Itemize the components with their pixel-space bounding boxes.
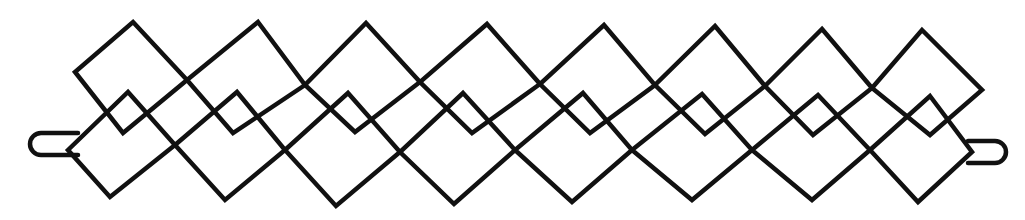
upper-square [872, 30, 982, 135]
upper-squares [75, 22, 982, 135]
lower-squares [68, 92, 972, 206]
lower-square [400, 93, 515, 204]
upper-square [75, 22, 187, 133]
upper-square [765, 29, 872, 135]
upper-square [187, 22, 305, 133]
interlaced-square-band [0, 0, 1025, 220]
lower-square [68, 92, 175, 197]
lower-square [752, 95, 870, 200]
band-drawing [0, 0, 1025, 220]
lower-square [515, 93, 632, 202]
